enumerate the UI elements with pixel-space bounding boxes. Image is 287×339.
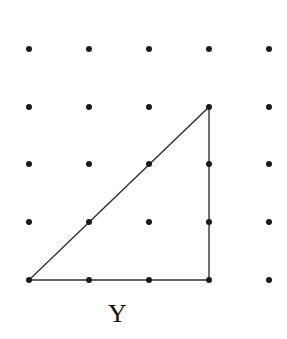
grid-dot bbox=[206, 104, 212, 110]
grid-dot bbox=[266, 46, 272, 52]
grid-dot bbox=[26, 46, 32, 52]
grid-dot bbox=[206, 219, 212, 225]
right-triangle bbox=[29, 107, 209, 280]
grid-dot bbox=[86, 219, 92, 225]
grid-dot bbox=[146, 46, 152, 52]
grid-dot bbox=[86, 161, 92, 167]
grid-dot bbox=[146, 277, 152, 283]
grid-dot bbox=[266, 219, 272, 225]
grid-dot bbox=[26, 277, 32, 283]
grid-dot bbox=[26, 219, 32, 225]
grid-dot bbox=[26, 104, 32, 110]
grid-dot bbox=[146, 161, 152, 167]
triangle-outline bbox=[29, 107, 209, 280]
shape-label-y: Y bbox=[108, 301, 127, 327]
grid-dot bbox=[206, 46, 212, 52]
grid-dot bbox=[146, 104, 152, 110]
grid-dot bbox=[266, 277, 272, 283]
grid-dot bbox=[266, 104, 272, 110]
grid-dot bbox=[206, 161, 212, 167]
dot-grid-diagram bbox=[0, 0, 287, 339]
grid-dot bbox=[86, 46, 92, 52]
grid-dot bbox=[206, 277, 212, 283]
grid-dot bbox=[86, 277, 92, 283]
grid-dot bbox=[146, 219, 152, 225]
grid-dot bbox=[266, 161, 272, 167]
grid-dot bbox=[86, 104, 92, 110]
grid-dot bbox=[26, 161, 32, 167]
